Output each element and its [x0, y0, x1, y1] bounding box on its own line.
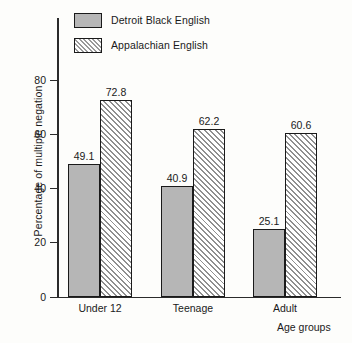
bar-detroit-adult: [253, 229, 285, 297]
x-tick-label-teenage: Teenage: [173, 302, 213, 314]
x-axis-title: Age groups: [277, 321, 331, 333]
x-tick-label-adult: Adult: [273, 302, 297, 314]
bar-value-appalachian-adult: 60.6: [291, 119, 311, 131]
bar-value-detroit-teenage: 40.9: [167, 172, 187, 184]
bar-appalachian-under-12: [100, 100, 132, 297]
bar-chart: Detroit Black English Appalachian Englis…: [0, 0, 352, 343]
bar-appalachian-teenage: [193, 129, 225, 297]
bar-value-appalachian-under-12: 72.8: [106, 86, 126, 98]
bar-value-detroit-adult: 25.1: [259, 215, 279, 227]
bar-value-detroit-under-12: 49.1: [74, 150, 94, 162]
bar-detroit-under-12: [68, 164, 100, 297]
bar-value-appalachian-teenage: 62.2: [199, 115, 219, 127]
plot-area: 49.1 72.8 40.9 62.2 25.1 60.6: [0, 0, 352, 343]
x-tick-label-under-12: Under 12: [78, 302, 121, 314]
bar-detroit-teenage: [161, 186, 193, 297]
bar-appalachian-adult: [285, 133, 317, 297]
